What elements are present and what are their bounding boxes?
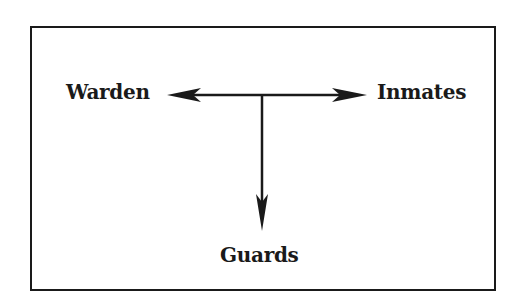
arrow-to-guards (256, 95, 268, 231)
arrow-to-warden (167, 88, 262, 102)
arrow-to-inmates (262, 88, 367, 102)
arrows (0, 0, 526, 308)
